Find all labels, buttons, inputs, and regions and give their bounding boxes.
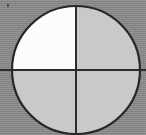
quadrant-upper-right [76, 0, 146, 70]
quadrant-lower-right [76, 70, 146, 135]
quadrant-upper-left [0, 0, 76, 70]
quadrant-group [0, 0, 146, 135]
quartered-circle-diagram [0, 0, 146, 135]
quadrant-lower-left [0, 70, 76, 135]
fraction-circle-figure [0, 0, 146, 135]
